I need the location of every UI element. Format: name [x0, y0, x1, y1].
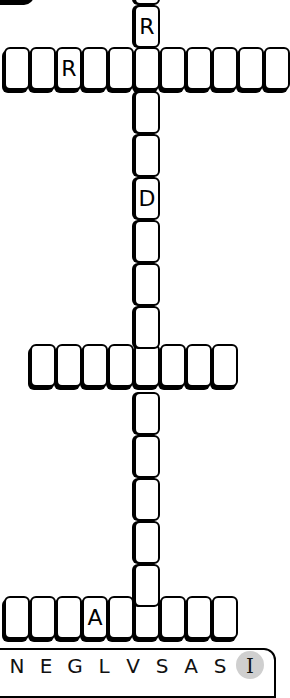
- column-tile[interactable]: D: [134, 177, 160, 220]
- row-1-tile[interactable]: [30, 47, 56, 90]
- tray-letter[interactable]: G: [64, 653, 86, 679]
- tray-letter-selected[interactable]: I: [236, 651, 264, 679]
- row-1-tile[interactable]: [212, 47, 238, 90]
- column-tile[interactable]: [134, 91, 160, 134]
- row-3-tile[interactable]: [108, 596, 134, 639]
- row-3-tile[interactable]: [56, 596, 82, 639]
- tray-letter[interactable]: N: [6, 653, 28, 679]
- row-2-tile[interactable]: [160, 344, 186, 387]
- row-1-tile[interactable]: [108, 47, 134, 90]
- row-1-tile[interactable]: [160, 47, 186, 90]
- column-tile[interactable]: [134, 521, 160, 564]
- tile-letter: R: [61, 58, 76, 80]
- row-1-tile[interactable]: [4, 47, 30, 90]
- row-3-tile[interactable]: [4, 596, 30, 639]
- row-3-tile[interactable]: [160, 596, 186, 639]
- row-2-tile[interactable]: [108, 344, 134, 387]
- row-1-tile[interactable]: [82, 47, 108, 90]
- tray-letter[interactable]: A: [180, 653, 202, 679]
- row-3-tile[interactable]: [186, 596, 212, 639]
- tile-letter: R: [139, 16, 154, 38]
- row-1-tile[interactable]: [238, 47, 264, 90]
- row-2-tile[interactable]: [134, 344, 160, 387]
- tray-letter[interactable]: E: [35, 653, 57, 679]
- tray-letter[interactable]: V: [122, 653, 144, 679]
- column-tile[interactable]: [134, 134, 160, 177]
- column-tile[interactable]: [134, 564, 160, 607]
- column-tile[interactable]: [134, 392, 160, 435]
- row-2-tile[interactable]: [212, 344, 238, 387]
- column-tile[interactable]: R: [134, 5, 160, 48]
- menu-tab[interactable]: [0, 0, 34, 5]
- tile-letter: D: [139, 188, 156, 210]
- row-1-tile[interactable]: R: [56, 47, 82, 90]
- tray-letter[interactable]: L: [93, 653, 115, 679]
- tray-letter[interactable]: S: [151, 653, 173, 679]
- row-1-tile[interactable]: [186, 47, 212, 90]
- tray-letter[interactable]: S: [209, 653, 231, 679]
- row-3-tile[interactable]: [30, 596, 56, 639]
- column-tile[interactable]: [134, 263, 160, 306]
- row-2-tile[interactable]: [82, 344, 108, 387]
- row-2-tile[interactable]: [56, 344, 82, 387]
- column-tile[interactable]: [134, 435, 160, 478]
- tile-letter: A: [87, 607, 102, 629]
- row-2-tile[interactable]: [186, 344, 212, 387]
- column-tile[interactable]: [134, 306, 160, 349]
- row-1-tile[interactable]: [134, 47, 160, 90]
- row-2-tile[interactable]: [30, 344, 56, 387]
- column-tile[interactable]: [134, 478, 160, 521]
- column-tile[interactable]: [134, 220, 160, 263]
- row-3-tile[interactable]: [212, 596, 238, 639]
- row-1-tile[interactable]: [264, 47, 290, 90]
- row-3-tile[interactable]: A: [82, 596, 108, 639]
